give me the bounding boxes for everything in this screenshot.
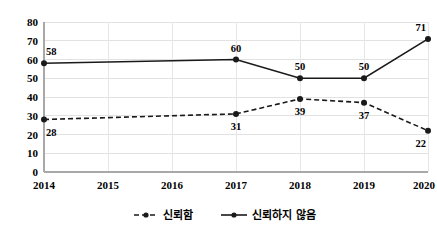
data-point-marker[interactable] [233, 111, 239, 117]
xtick-2020: 2020 [413, 179, 436, 191]
data-label: 31 [231, 121, 242, 132]
data-label: 50 [295, 61, 306, 72]
data-point-marker[interactable] [425, 128, 431, 134]
legend-solid-marker-icon [231, 212, 236, 217]
xtick-2016: 2016 [161, 179, 184, 191]
data-label: 22 [416, 138, 427, 149]
data-point-marker[interactable] [361, 100, 367, 106]
xtick-2019: 2019 [353, 179, 376, 191]
data-point-marker[interactable] [297, 75, 303, 81]
ytick-70: 70 [27, 35, 39, 47]
xtick-2015: 2015 [97, 179, 120, 191]
ytick-30: 30 [27, 110, 39, 122]
ytick-10: 10 [27, 147, 39, 159]
xtick-2017: 2017 [225, 179, 248, 191]
data-point-marker[interactable] [41, 60, 47, 66]
data-label: 37 [359, 110, 370, 121]
data-point-marker[interactable] [297, 96, 303, 102]
data-point-marker[interactable] [233, 57, 239, 63]
data-label: 60 [231, 43, 242, 54]
chart-background [0, 0, 437, 234]
ytick-80: 80 [27, 16, 39, 28]
data-label: 39 [295, 106, 306, 117]
data-label: 71 [416, 22, 427, 33]
line-chart: 80 70 60 50 40 30 20 10 0 2014 2015 2016… [0, 0, 437, 234]
data-point-marker[interactable] [425, 36, 431, 42]
data-label: 28 [46, 127, 57, 138]
data-label: 50 [359, 61, 370, 72]
ytick-0: 0 [33, 166, 39, 178]
y-axis-tick-labels: 80 70 60 50 40 30 20 10 0 [27, 16, 39, 178]
data-point-marker[interactable] [41, 117, 47, 123]
data-point-marker[interactable] [361, 75, 367, 81]
chart-canvas: 80 70 60 50 40 30 20 10 0 2014 2015 2016… [0, 0, 437, 234]
legend-label-sinroehaji-aneum: 신뢰하지 않음 [252, 208, 316, 222]
ytick-20: 20 [27, 129, 39, 141]
legend-label-sinroeham: 신뢰함 [163, 208, 193, 222]
legend-dashed-marker-icon [143, 212, 148, 217]
xtick-2018: 2018 [289, 179, 312, 191]
xtick-2014: 2014 [33, 179, 56, 191]
ytick-40: 40 [27, 91, 39, 103]
ytick-60: 60 [27, 54, 39, 66]
data-label: 58 [46, 46, 57, 57]
ytick-50: 50 [27, 72, 39, 84]
